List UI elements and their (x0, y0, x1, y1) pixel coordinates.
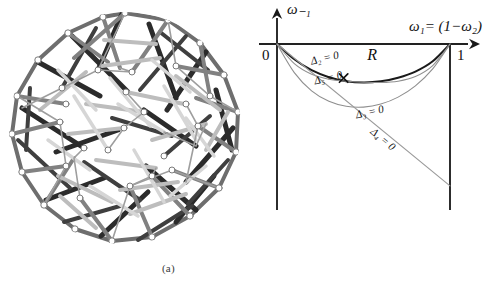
delta4-label: Δ₄ = 0 (368, 124, 399, 153)
axis-titles: ω₋₁ω₁= (1−ω₂) (287, 1, 482, 35)
xtick-0: 0 (262, 47, 270, 63)
panel-b-plot: 01 Δ₂ = 0Δ₅ = 0Δ₃ = 0Δ₄ = 0R ω₋₁ω₁= (1−ω… (250, 0, 490, 290)
xtick-1: 1 (457, 47, 465, 63)
curve-2 (277, 44, 450, 83)
y-axis-title: ω₋₁ (287, 1, 311, 17)
curve-1 (277, 44, 450, 83)
region-r-label: R (366, 46, 377, 63)
panel-a-caption: (a) (162, 262, 175, 274)
curve-annotations: Δ₂ = 0Δ₅ = 0Δ₃ = 0Δ₄ = 0R (308, 46, 398, 153)
delta2-label: Δ₂ = 0 (308, 48, 340, 66)
x-axis-title: ω₁= (1−ω₂) (409, 18, 482, 35)
figure-container: (a) 01 Δ₂ = 0Δ₅ = 0Δ₃ = 0Δ₄ = 0R ω₋₁ω₁= … (0, 0, 490, 290)
tensegrity-sphere-graphic (0, 0, 250, 258)
delta3-label: Δ₃ = 0 (353, 102, 385, 120)
stability-region-plot: 01 Δ₂ = 0Δ₅ = 0Δ₃ = 0Δ₄ = 0R ω₋₁ω₁= (1−ω… (250, 0, 490, 270)
curve-3 (277, 44, 450, 107)
delta5-label: Δ₅ = 0 (312, 68, 344, 86)
panel-a-tensegrity-sphere: (a) (0, 0, 250, 290)
